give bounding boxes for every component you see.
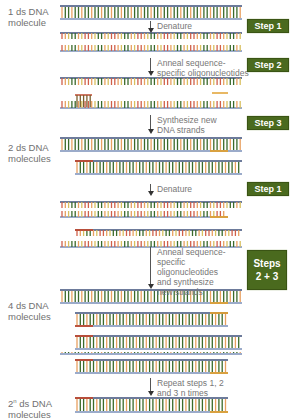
arrow-label-denature: Denature [157, 21, 192, 31]
step-badge-1: Step 1 [247, 19, 289, 33]
arrow-down-icon [150, 58, 151, 72]
badge-line: Steps [248, 257, 286, 270]
text-line: Anneal sequence- [157, 58, 249, 68]
arrow-label-repeat: Repeat steps 1, 2 and 3 n times [157, 378, 224, 398]
text-line: specific oligonucleotides [157, 68, 249, 78]
text-line: Repeat steps 1, 2 [157, 378, 224, 388]
arrow-down-icon [150, 378, 151, 392]
text-line: specific [157, 257, 226, 267]
step-badge-2-3: Steps 2 + 3 [247, 250, 287, 290]
arrow-down-icon [150, 247, 151, 285]
step-badge-2: Step 2 [247, 58, 289, 72]
arrow-down-icon [150, 21, 151, 29]
arrow-label-anneal: Anneal sequence- specific oligonucleotid… [157, 58, 249, 78]
text-line: new strands [157, 287, 226, 297]
text-line: Synthesize new [157, 115, 217, 125]
arrow-down-icon [150, 115, 151, 130]
text-line: oligonucleotides [157, 267, 226, 277]
text-line: Anneal sequence- [157, 247, 226, 257]
arrow-label-anneal-synthesize: Anneal sequence- specific oligonucleotid… [157, 247, 226, 297]
text-line: and synthesize [157, 277, 226, 287]
step-badge-3: Step 3 [247, 116, 289, 130]
arrow-label-synthesize: Synthesize new DNA strands [157, 115, 217, 135]
arrow-down-icon [150, 184, 151, 192]
arrow-label-denature: Denature [157, 184, 192, 194]
text-line: and 3 n times [157, 388, 224, 398]
badge-line: 2 + 3 [248, 270, 286, 283]
text-line: DNA strands [157, 125, 217, 135]
step-badge-1-repeat: Step 1 [247, 182, 289, 196]
